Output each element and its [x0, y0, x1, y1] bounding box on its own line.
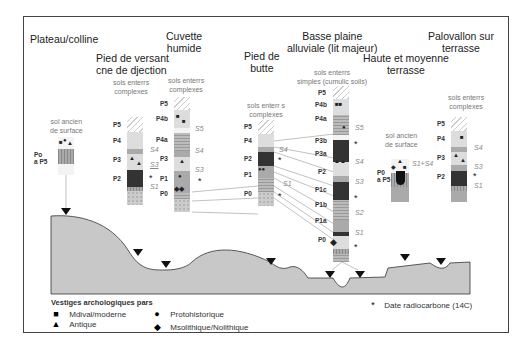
layer-label: P2: [113, 175, 121, 182]
diamond-icon: ◆: [391, 163, 396, 170]
soil-label: S3: [474, 163, 483, 170]
layer-label: P1b: [315, 201, 327, 208]
soil-label: S5: [355, 124, 364, 131]
layer-label: P3: [437, 154, 445, 161]
soil-label: S1: [283, 180, 292, 187]
circle-icon: ●●: [258, 166, 265, 172]
column-palovallon: ■ ▲ ▲: [451, 117, 467, 202]
layer-label: P2: [437, 173, 445, 180]
square-icon: ■: [176, 113, 180, 119]
soil-label: S4: [355, 158, 364, 165]
layer-label: P0: [160, 190, 168, 197]
column-plateau: ■ ● ▲: [58, 137, 74, 175]
legend-item-radiocarbon: * Date radiocarbone (14C): [368, 300, 472, 310]
legend-item-medieval: ■ Mdival/moderne: [51, 309, 126, 319]
soil-label: S3: [355, 178, 364, 185]
layer-label: P2: [244, 155, 252, 162]
layer-label: P3b: [315, 137, 327, 144]
soil-label: S5: [195, 125, 204, 132]
layer-label: P4: [437, 135, 445, 142]
layer-label: P3: [160, 155, 168, 162]
soil-label: S1+S4: [412, 160, 433, 167]
square-icon: ■: [182, 118, 186, 124]
layer-label: P1: [244, 171, 252, 178]
column-basse-plaine: ■■ ● ▲▲ ◆: [333, 86, 349, 262]
layer-label: P5: [318, 89, 326, 96]
column-cuvette: ■ ■ ▲ ● ◆◆: [174, 97, 190, 212]
triangle-icon: ▲: [179, 158, 185, 164]
layer-label: P4a: [156, 136, 168, 143]
column-pied-versant: ▲ ▲: [127, 117, 143, 197]
legend-item-antique: ▲ Antique: [51, 319, 96, 329]
layer-label: P5: [113, 121, 121, 128]
radiocarbon-marker: *: [354, 243, 358, 252]
radiocarbon-marker: *: [354, 194, 358, 203]
soil-label: S3: [150, 161, 159, 168]
soil-label: S1: [355, 229, 364, 236]
square-icon: ■: [51, 309, 61, 319]
radiocarbon-marker: *: [354, 140, 358, 149]
range-label-plateau: Po a P5: [34, 151, 47, 165]
soil-label: S2: [355, 209, 364, 216]
triangle-icon: ▲▲: [334, 158, 346, 164]
diamond-icon: ◆: [152, 322, 162, 332]
column-pied-butte: ●●: [258, 120, 274, 202]
layer-label: P4b: [315, 101, 327, 108]
radiocarbon-marker: *: [278, 192, 282, 201]
triangle-icon: ▲: [136, 160, 142, 166]
square-icon: ■■: [335, 101, 342, 107]
legend-item-mesolithique: ◆ Msolithique/Nolithique: [152, 322, 249, 332]
layer-label: P5: [160, 100, 168, 107]
layer-label: P5: [244, 123, 252, 130]
layer-label: P3a: [315, 150, 327, 157]
triangle-icon: ▲: [51, 319, 61, 329]
layer-label: P4b: [156, 115, 168, 122]
layer-label: P4: [244, 137, 252, 144]
layer-label: P1c: [315, 186, 327, 193]
layer-label: P4: [113, 137, 121, 144]
soil-label: S3: [195, 166, 204, 173]
soil-label: S4: [279, 146, 288, 153]
radiocarbon-marker: *: [149, 174, 153, 183]
square-icon: ■: [460, 134, 464, 140]
radiocarbon-marker: *: [473, 172, 477, 181]
triangle-icon: ▲: [67, 140, 73, 146]
diamond-icon: ◆◆: [174, 185, 184, 193]
layer-label: P0: [318, 236, 326, 243]
soil-label: S1: [150, 183, 159, 190]
column-haute-terrasse: ◆ ▲ ■: [391, 159, 409, 202]
circle-icon: ●: [342, 124, 346, 130]
layer-label: P1a: [315, 217, 327, 224]
layer-label: P2: [318, 168, 326, 175]
layer-label: P5: [437, 120, 445, 127]
layer-label: P4a: [315, 115, 327, 122]
soil-label: S1: [474, 182, 483, 189]
radiocarbon-marker: *: [198, 177, 202, 186]
layer-label: P1: [160, 175, 168, 182]
radiocarbon-marker: *: [278, 156, 282, 165]
circle-icon: ●: [178, 173, 182, 179]
layer-label: P3: [113, 156, 121, 163]
soil-label: S4: [474, 144, 483, 151]
triangle-icon: ▲: [129, 155, 135, 161]
layer-label: P0: [244, 190, 252, 197]
legend-title: Vestiges archologiques pars: [51, 298, 153, 307]
asterisk-icon: *: [368, 300, 378, 310]
triangle-icon: ▲: [460, 157, 466, 163]
square-icon: ■: [403, 164, 407, 170]
triangle-icon: ▲: [453, 152, 459, 158]
soil-label: S4: [195, 147, 204, 154]
range-label-haute-terrasse: P0 a P5: [377, 169, 390, 183]
soil-label: S4: [150, 146, 159, 153]
diamond-icon: ◆: [330, 237, 337, 247]
pit-feature: [396, 171, 405, 185]
circle-icon: ●: [152, 309, 162, 319]
legend-item-protohistorique: ● Protohistorique: [152, 309, 224, 319]
